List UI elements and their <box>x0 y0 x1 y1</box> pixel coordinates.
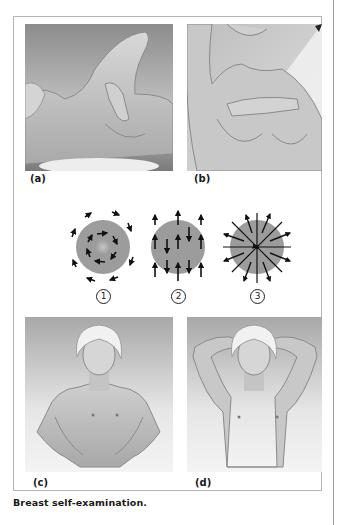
pattern-1-number: 1 <box>96 289 111 304</box>
panel-a-illustration <box>25 24 173 171</box>
pattern-diagrams <box>60 205 300 290</box>
panel-d-label: (d) <box>195 477 211 488</box>
figure-caption: Breast self-examination. <box>13 497 147 508</box>
panel-c-label: (c) <box>33 477 48 488</box>
panel-c-illustration <box>25 317 173 472</box>
pattern-3-number: 3 <box>250 289 265 304</box>
panel-b-label: (b) <box>194 173 210 184</box>
pattern-2-number: 2 <box>171 289 186 304</box>
panel-a-label: (a) <box>30 173 46 184</box>
panel-d-illustration <box>187 317 322 472</box>
panel-b-illustration <box>187 24 322 171</box>
page-margin-rule <box>333 0 334 525</box>
